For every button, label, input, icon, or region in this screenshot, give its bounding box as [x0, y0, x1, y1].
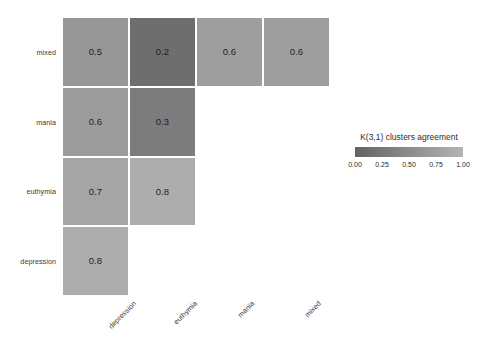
- heatmap-cell-value: 0.6: [290, 47, 304, 57]
- heatmap-cell: 0.6: [62, 87, 129, 157]
- heatmap-cell-value: 0.8: [156, 187, 170, 197]
- heatmap-cell-value: 0.8: [89, 256, 103, 266]
- legend-tick-labels: 0.000.250.500.751.00: [355, 161, 463, 172]
- y-axis: mixedmaniaeuthymiadepression: [0, 17, 56, 296]
- legend-tick-label: 0.25: [375, 161, 389, 168]
- heatmap-cell-value: 0.2: [156, 47, 170, 57]
- legend-tick-label: 0.75: [429, 161, 443, 168]
- heatmap-cell: 0.2: [129, 17, 196, 87]
- y-axis-tick-label: mania: [36, 117, 56, 126]
- y-axis-tick-label: depression: [20, 257, 56, 266]
- legend-tick-label: 1.00: [456, 161, 470, 168]
- y-axis-tick-label: mixed: [37, 47, 56, 56]
- x-axis-tick-label: euthymia: [171, 299, 198, 326]
- heatmap-cell: 0.6: [263, 17, 330, 87]
- heatmap-cell: 0.5: [62, 17, 129, 87]
- heatmap-cell: 0.8: [129, 157, 196, 227]
- legend-title: K(3,1) clusters agreement: [343, 132, 475, 142]
- heatmap-cell-value: 0.7: [89, 187, 103, 197]
- heatmap-cell: 0.6: [196, 17, 263, 87]
- heatmap-plot-panel: 0.50.20.60.60.60.30.70.80.8: [62, 17, 330, 296]
- x-axis: depressioneuthymiamaniamixed: [62, 299, 330, 357]
- x-axis-tick-label: mania: [235, 299, 255, 319]
- legend: K(3,1) clusters agreement 0.000.250.500.…: [343, 132, 475, 172]
- heatmap-cell: 0.8: [62, 226, 129, 296]
- heatmap-cell-value: 0.6: [89, 117, 103, 127]
- heatmap-cell-value: 0.3: [156, 117, 170, 127]
- legend-tick-label: 0.50: [402, 161, 416, 168]
- x-axis-tick-label: depression: [106, 299, 138, 331]
- heatmap-cell-value: 0.6: [223, 47, 237, 57]
- heatmap-cell-value: 0.5: [89, 47, 103, 57]
- legend-tick-label: 0.00: [348, 161, 362, 168]
- heatmap-cell: 0.3: [129, 87, 196, 157]
- legend-gradient-bar: [355, 147, 463, 157]
- heatmap-cell: 0.7: [62, 157, 129, 227]
- y-axis-tick-label: euthymia: [26, 187, 56, 196]
- x-axis-tick-label: mixed: [302, 299, 322, 319]
